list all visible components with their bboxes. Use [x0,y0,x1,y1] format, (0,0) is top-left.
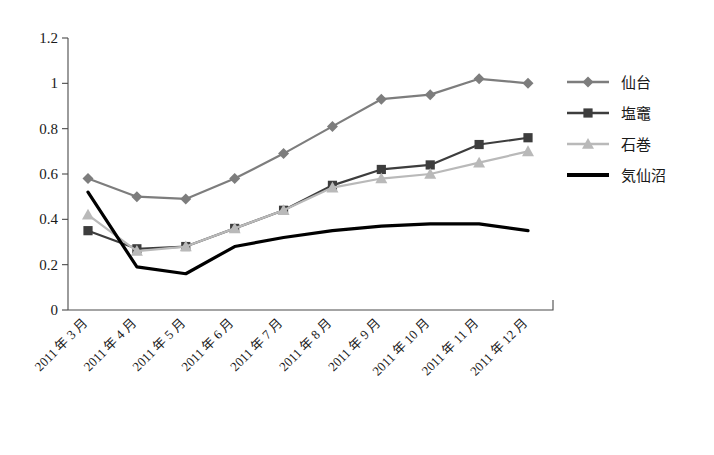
data-point-marker [82,209,94,220]
series-layer [82,73,534,273]
chart-legend: 仙台塩竈石巻気仙沼 [567,75,666,184]
series-仙台 [83,73,534,204]
series-line [88,151,528,251]
data-point-marker [376,94,387,105]
y-tick-label: 1.2 [39,30,58,46]
y-tick-label: 0.6 [39,166,58,182]
series-line [88,79,528,199]
data-point-marker [180,193,191,204]
legend-item-気仙沼: 気仙沼 [567,168,666,184]
data-point-marker [83,226,92,235]
y-tick-label: 0.8 [39,121,58,137]
chart-canvas: 00.20.40.60.811.2 2011 年 3 月2011 年 4 月20… [0,0,714,455]
data-point-marker [583,108,592,117]
data-point-marker [523,78,534,89]
data-point-marker [583,77,594,88]
data-point-marker [229,173,240,184]
x-axis [68,300,553,310]
data-point-marker [475,140,484,149]
y-axis: 00.20.40.60.811.2 [39,30,68,318]
legend-item-石巻: 石巻 [567,137,651,153]
series-line [88,138,528,249]
series-石巻 [82,145,534,256]
data-point-marker [474,73,485,84]
data-point-marker [131,191,142,202]
legend-item-塩竈: 塩竈 [567,106,651,122]
data-point-marker [523,133,532,142]
series-line [88,192,528,274]
series-気仙沼 [88,192,528,274]
legend-label: 塩竈 [621,106,651,122]
data-point-marker [278,148,289,159]
y-tick-label: 1 [51,75,59,91]
legend-label: 気仙沼 [621,168,666,184]
legend-item-仙台: 仙台 [567,75,651,91]
data-point-marker [425,89,436,100]
y-tick-label: 0.4 [39,211,58,227]
x-tick-labels: 2011 年 3 月2011 年 4 月2011 年 5 月2011 年 6 月… [32,316,531,379]
y-tick-label: 0.2 [39,257,58,273]
legend-label: 石巻 [621,137,651,153]
y-tick-label: 0 [51,302,59,318]
data-point-marker [327,121,338,132]
legend-label: 仙台 [621,75,651,91]
data-point-marker [83,173,94,184]
data-point-marker [522,145,534,156]
line-chart: 00.20.40.60.811.2 2011 年 3 月2011 年 4 月20… [0,0,714,455]
